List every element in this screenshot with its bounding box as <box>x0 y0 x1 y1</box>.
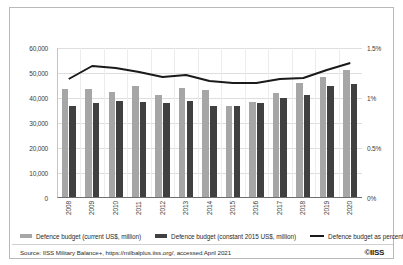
x-axis-tick-2015: 2015 <box>229 201 236 223</box>
x-axis-tick-2020: 2020 <box>346 201 353 223</box>
legend-light-swatch-icon <box>20 234 32 238</box>
y-axis-left-tick: 50,000 <box>12 70 48 77</box>
x-axis-tick-2016: 2016 <box>252 201 259 223</box>
cropped-top-text <box>0 0 403 7</box>
legend-dark-swatch-icon <box>155 234 167 238</box>
legend-label-gdp-percentage: Defence budget as percentage of GDP <box>328 233 403 240</box>
legend-item-constant-budget[interactable]: Defence budget (constant 2015 US$, milli… <box>155 233 296 240</box>
chart-frame: 010,00020,00030,00040,00050,00060,000 0%… <box>9 7 394 259</box>
footer-divider <box>12 244 393 245</box>
source-note: Source: IISS Military Balance+, https://… <box>20 249 231 256</box>
x-axis-tick-2010: 2010 <box>112 201 119 223</box>
legend-line-swatch-icon <box>310 235 324 238</box>
legend-label-current-budget: Defence budget (current US$, million) <box>36 233 141 240</box>
x-axis-tick-2014: 2014 <box>206 201 213 223</box>
x-axis-tick-2009: 2009 <box>88 201 95 223</box>
x-axis-tick-2008: 2008 <box>65 201 72 223</box>
y-axis-left-tick: 0 <box>12 195 48 202</box>
x-axis-tick-2012: 2012 <box>159 201 166 223</box>
legend-item-current-budget[interactable]: Defence budget (current US$, million) <box>20 233 141 240</box>
x-axis-tick-2019: 2019 <box>323 201 330 223</box>
y-axis-right-tick: 1.5% <box>367 45 397 52</box>
y-axis-right-tick: 0% <box>367 195 397 202</box>
x-axis-tick-2011: 2011 <box>135 201 142 223</box>
x-axis-tick-2018: 2018 <box>299 201 306 223</box>
y-axis-right-tick: 0.5% <box>367 145 397 152</box>
y-axis-left-tick: 40,000 <box>12 95 48 102</box>
y-axis-right-tick: 1% <box>367 95 397 102</box>
chart-legend: Defence budget (current US$, million) De… <box>20 230 385 242</box>
legend-label-constant-budget: Defence budget (constant 2015 US$, milli… <box>171 233 296 240</box>
chart-page: 010,00020,00030,00040,00050,00060,000 0%… <box>0 0 403 265</box>
x-axis-tick-2013: 2013 <box>182 201 189 223</box>
iiss-copyright: ©IISS <box>364 248 384 257</box>
x-axis-tick-2017: 2017 <box>276 201 283 223</box>
plot-axes <box>57 48 362 198</box>
y-axis-left-tick: 30,000 <box>12 120 48 127</box>
y-axis-left-tick: 10,000 <box>12 170 48 177</box>
legend-item-gdp-percentage[interactable]: Defence budget as percentage of GDP <box>310 233 403 240</box>
plot-area <box>57 48 362 198</box>
y-axis-left-tick: 20,000 <box>12 145 48 152</box>
y-axis-left-tick: 60,000 <box>12 45 48 52</box>
